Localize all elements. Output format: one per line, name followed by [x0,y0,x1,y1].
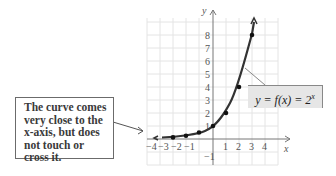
curve-label: y = f(x) = 2x [248,85,323,108]
callout-line: The curve comes [24,101,113,114]
svg-text:−4: −4 [146,141,157,152]
svg-text:4: 4 [262,141,267,152]
svg-text:−2: −2 [171,141,182,152]
svg-text:4: 4 [205,82,210,93]
svg-text:6: 6 [205,56,210,67]
callout-box: The curve comes very close to the x-axis… [15,97,114,159]
svg-text:−1: −1 [184,141,195,152]
svg-text:3: 3 [205,95,210,106]
svg-text:1: 1 [223,141,228,152]
svg-text:3: 3 [249,141,254,152]
svg-text:y: y [201,5,207,16]
svg-text:−3: −3 [158,141,169,152]
callout-line: not touch or [24,139,113,152]
svg-text:8: 8 [205,30,210,41]
svg-text:7: 7 [205,43,210,54]
svg-text:−1: −1 [204,151,215,162]
svg-text:2: 2 [205,108,210,119]
svg-text:x: x [283,143,289,154]
callout-line: very close to the [24,114,113,127]
svg-text:2: 2 [236,141,241,152]
tick-labels: −4−3−2−1 1234 −1 1234 5678 y x [146,5,289,162]
callout-line: cross it. [24,151,113,164]
callout-line: x-axis, but does [24,126,113,139]
svg-text:5: 5 [205,69,210,80]
